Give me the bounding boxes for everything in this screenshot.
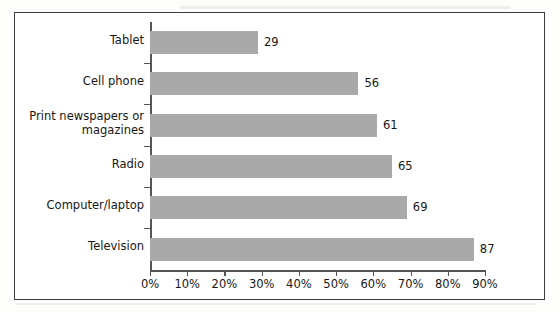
bar-value-label-tablet: 29: [264, 32, 279, 53]
scan-artifact: [180, 6, 510, 9]
bar-value-label-television: 87: [480, 239, 495, 260]
bar-value-label-radio: 65: [398, 156, 413, 177]
value-axis-tick: [299, 271, 300, 276]
value-axis-tick: [411, 271, 412, 276]
category-label-line: Television: [18, 240, 144, 254]
category-label-line: Radio: [18, 158, 144, 172]
bar-radio[interactable]: [150, 155, 392, 178]
value-axis-tick-label-70: 70%: [391, 277, 431, 291]
value-axis-tick: [150, 271, 151, 276]
value-axis-tick: [262, 271, 263, 276]
value-axis-tick-label-50: 50%: [316, 277, 356, 291]
value-axis-tick: [448, 271, 449, 276]
bar-television[interactable]: [150, 238, 474, 261]
category-label-television: Television: [18, 240, 144, 254]
category-label-line: Cell phone: [18, 75, 144, 89]
category-label-line: magazines: [18, 124, 144, 138]
category-label-line: Tablet: [18, 34, 144, 48]
category-label-line: Computer/laptop: [18, 199, 144, 213]
category-label-computer-laptop: Computer/laptop: [18, 199, 144, 213]
bar-value-label-cell-phone: 56: [364, 73, 379, 94]
plot-area: 29 56 61 65 69 87: [150, 22, 485, 270]
bar-chart-figure: Tablet Cell phone Print newspapers or ma…: [0, 0, 560, 313]
value-axis-tick-label-0: 0%: [130, 277, 170, 291]
bar-value-label-print-newspapers-or-magazines: 61: [383, 115, 398, 136]
bar-print-newspapers-or-magazines[interactable]: [150, 114, 377, 137]
bar-row-print-newspapers-or-magazines: 61: [150, 105, 550, 146]
value-axis-tick-label-90: 90%: [465, 277, 505, 291]
value-axis-tick-label-80: 80%: [428, 277, 468, 291]
value-axis-tick: [485, 271, 486, 276]
category-label-line: Print newspapers or: [18, 110, 144, 124]
bar-computer-laptop[interactable]: [150, 196, 407, 219]
value-axis-tick-label-40: 40%: [279, 277, 319, 291]
category-label-radio: Radio: [18, 158, 144, 172]
category-label-print-newspapers-or-magazines: Print newspapers or magazines: [18, 110, 144, 137]
value-axis-tick: [336, 271, 337, 276]
value-axis-tick: [373, 271, 374, 276]
value-axis-tick: [224, 271, 225, 276]
bar-row-radio: 65: [150, 146, 550, 187]
scan-artifact: [16, 303, 536, 305]
category-label-tablet: Tablet: [18, 34, 144, 48]
bar-tablet[interactable]: [150, 31, 258, 54]
bar-row-television: 87: [150, 229, 550, 270]
value-axis-tick-label-10: 10%: [167, 277, 207, 291]
bar-cell-phone[interactable]: [150, 72, 358, 95]
value-axis-tick-label-20: 20%: [204, 277, 244, 291]
value-axis-line: [150, 270, 486, 272]
bar-row-tablet: 29: [150, 22, 550, 63]
value-axis-tick: [187, 271, 188, 276]
bar-row-cell-phone: 56: [150, 63, 550, 104]
bar-value-label-computer-laptop: 69: [413, 197, 428, 218]
bar-row-computer-laptop: 69: [150, 187, 550, 228]
value-axis-tick-label-30: 30%: [242, 277, 282, 291]
value-axis-tick-label-60: 60%: [353, 277, 393, 291]
category-label-cell-phone: Cell phone: [18, 75, 144, 89]
